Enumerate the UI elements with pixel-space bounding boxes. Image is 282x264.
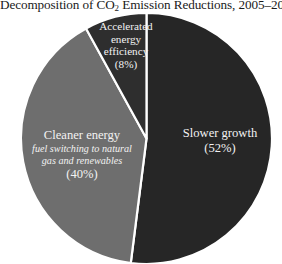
chart-canvas: Decomposition of CO2 Emission Reductions…: [0, 0, 282, 264]
pie-slice-group: [21, 13, 272, 264]
chart-title: Decomposition of CO2 Emission Reductions…: [0, 0, 282, 16]
pie-chart: [21, 13, 272, 264]
pie-slice: [131, 13, 272, 264]
chart-title-suffix: Emission Reductions, 2005–2012: [119, 0, 282, 12]
pie-svg: [21, 13, 272, 264]
chart-title-prefix: Decomposition of CO: [0, 0, 115, 12]
